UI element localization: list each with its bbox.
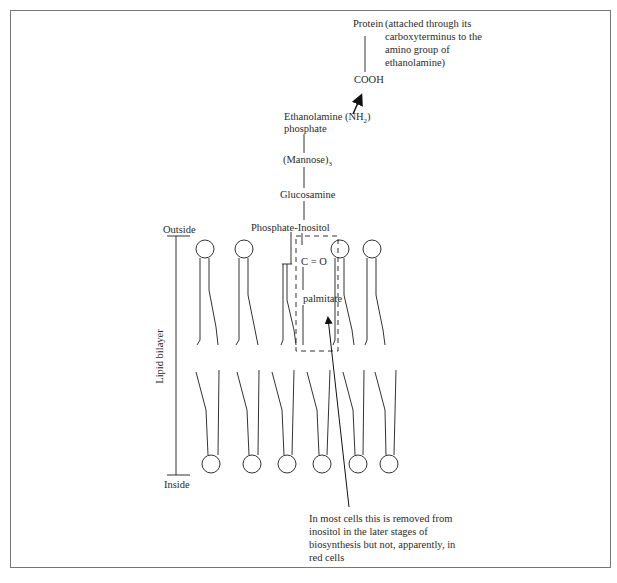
removal-note-line: inositol in the later stages of bbox=[309, 525, 455, 538]
outside-label: Outside bbox=[163, 223, 196, 236]
ethanolamine-text: Ethanolamine (NH bbox=[284, 111, 364, 122]
mannose-text: (Mannose) bbox=[283, 154, 329, 165]
ethanolamine-close: ) bbox=[367, 111, 371, 122]
lipid-bilayer-label: Lipid bilayer bbox=[153, 329, 166, 384]
protein-note-line: ethanolamine) bbox=[385, 56, 482, 69]
protein-label: Protein bbox=[353, 17, 383, 30]
mannose-label: (Mannose)3 bbox=[283, 153, 332, 171]
glucosamine-label: Glucosamine bbox=[280, 188, 335, 201]
upper-leaflet bbox=[196, 232, 385, 345]
protein-note-line: carboxyterminus to the bbox=[385, 30, 482, 43]
phosphate-label: phosphate bbox=[284, 122, 327, 135]
protein-note-line: (attached through its bbox=[385, 17, 482, 30]
protein-note-line: amino group of bbox=[385, 43, 482, 56]
mannose-subscript: 3 bbox=[329, 160, 333, 168]
protein-note: (attached through its carboxyterminus to… bbox=[385, 17, 482, 69]
removal-note-line: biosynthesis but not, apparently, in bbox=[309, 538, 455, 551]
phosphate-inositol-label: Phosphate-Inositol bbox=[251, 221, 330, 234]
removal-note-line: red cells bbox=[309, 551, 455, 564]
inside-label: Inside bbox=[164, 478, 190, 491]
cooh-label: COOH bbox=[354, 73, 384, 86]
carbonyl-label: C = O bbox=[301, 255, 327, 268]
removal-arrow bbox=[328, 318, 349, 507]
palmitate-label: palmitate bbox=[303, 292, 342, 305]
removal-note: In most cells this is removed from inosi… bbox=[309, 512, 455, 564]
lower-leaflet bbox=[196, 370, 398, 473]
removal-note-line: In most cells this is removed from bbox=[309, 512, 455, 525]
